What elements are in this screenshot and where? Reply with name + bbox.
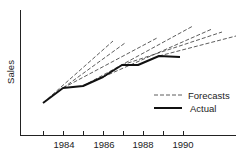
legend: Forecasts Actual bbox=[154, 90, 230, 115]
y-axis-label: Sales bbox=[5, 60, 16, 84]
x-tick-labels: 1984 1986 1988 1990 bbox=[53, 139, 193, 150]
sales-forecast-chart: 1984 1986 1988 1990 Sales Forecasts Actu… bbox=[0, 0, 244, 157]
tick-label-1986: 1986 bbox=[93, 139, 114, 150]
legend-forecasts-label: Forecasts bbox=[188, 90, 230, 101]
tick-label-1984: 1984 bbox=[53, 139, 74, 150]
actual-line bbox=[43, 56, 180, 103]
x-ticks bbox=[44, 131, 184, 135]
axes bbox=[20, 10, 236, 136]
tick-label-1988: 1988 bbox=[132, 139, 153, 150]
legend-actual-label: Actual bbox=[190, 103, 216, 114]
tick-label-1990: 1990 bbox=[172, 139, 193, 150]
